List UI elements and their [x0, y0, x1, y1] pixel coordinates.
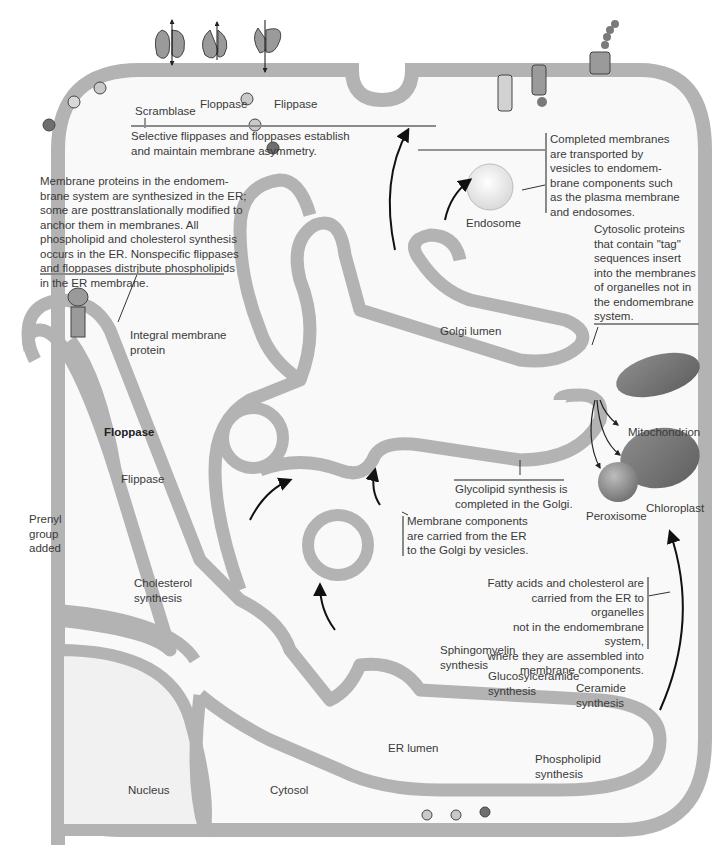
label-nucleus: Nucleus	[128, 783, 170, 797]
label-er-lumen: ER lumen	[388, 741, 439, 755]
label-chloroplast: Chloroplast	[646, 501, 704, 515]
note-glycolipid: Glycolipid synthesis is completed in the…	[455, 482, 573, 511]
label-ceramide-synthesis: Ceramide synthesis	[576, 681, 626, 710]
label-peroxisome: Peroxisome	[586, 509, 647, 523]
transport-vesicle-upper	[223, 408, 283, 468]
label-floppase: Floppase	[200, 97, 247, 111]
label-integral-membrane-protein: Integral membrane protein	[130, 328, 227, 357]
note-rule	[594, 323, 699, 325]
note-er-to-golgi: Membrane components are carried from the…	[407, 514, 528, 558]
floppase-icon	[202, 22, 226, 60]
scramblase-icon	[155, 20, 184, 65]
label-sphingomyelin-synthesis: Sphingomyelin synthesis	[440, 643, 515, 672]
note-rule	[454, 479, 564, 481]
note-completed-membranes: Completed membranes are transported by v…	[550, 132, 680, 219]
ribosome-icon	[68, 288, 88, 337]
label-flippase-er: Flippase	[121, 472, 164, 486]
peroxisome	[598, 462, 638, 502]
note-rule	[40, 273, 224, 275]
note-rule	[545, 133, 547, 213]
note-cytosolic-proteins: Cytosolic proteins that contain "tag" se…	[594, 222, 696, 324]
note-asymmetry: Selective flippases and floppases establ…	[131, 129, 350, 158]
label-scramblase: Scramblase	[135, 104, 196, 118]
label-flippase: Flippase	[274, 97, 317, 111]
label-endosome: Endosome	[466, 216, 521, 230]
label-glucosylceramide-synthesis: Glucosylceramide synthesis	[488, 669, 579, 698]
label-cytosol: Cytosol	[270, 783, 308, 797]
label-phospholipid-synthesis: Phospholipid synthesis	[535, 752, 601, 781]
transport-vesicle-lower	[308, 515, 368, 575]
note-rule	[402, 516, 404, 556]
label-golgi-lumen: Golgi lumen	[440, 324, 501, 338]
label-mitochondrion: Mitochondrion	[628, 425, 700, 439]
label-cholesterol-synthesis: Cholesterol synthesis	[134, 576, 192, 605]
note-rule	[131, 125, 436, 127]
endosome	[467, 164, 513, 210]
note-rule	[647, 577, 649, 649]
label-floppase-er: Floppase	[104, 425, 154, 439]
label-prenyl-group: Prenyl group added	[29, 512, 62, 556]
